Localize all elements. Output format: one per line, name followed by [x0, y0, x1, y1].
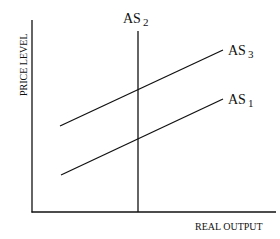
as1-line — [61, 99, 223, 175]
as3-label: AS3 — [228, 43, 254, 60]
as3-line — [60, 50, 223, 126]
x-axis-label: REAL OUTPUT — [195, 221, 263, 232]
aggregate-supply-chart: AS2 AS3 AS1 PRICE LEVEL REAL OUTPUT — [0, 0, 280, 239]
as2-label: AS2 — [123, 11, 148, 28]
as1-label: AS1 — [228, 92, 253, 109]
y-axis-label: PRICE LEVEL — [18, 34, 29, 97]
